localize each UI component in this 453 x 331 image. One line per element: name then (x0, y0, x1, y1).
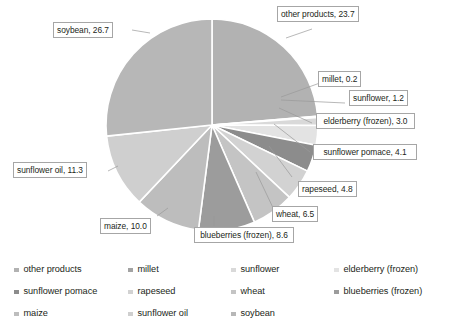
chart-legend: other productsmilletsunflowerelderberry … (14, 259, 446, 325)
callout-rapeseed: rapeseed, 4.8 (298, 181, 357, 197)
legend-swatch-icon (128, 268, 133, 273)
callout-maize: maize, 10.0 (100, 218, 151, 234)
legend-swatch-icon (334, 290, 339, 295)
legend-item[interactable]: sunflower (231, 259, 279, 280)
legend-swatch-icon (231, 268, 236, 273)
callout-millet: millet, 0.2 (318, 71, 361, 87)
legend-item[interactable]: sunflower oil (128, 303, 188, 324)
legend-swatch-icon (128, 312, 133, 317)
pie-slice-group (106, 19, 318, 231)
callout-sunflower: sunflower, 1.2 (349, 90, 408, 106)
pie-plot-area: other products, 23.7 millet, 0.2 sunflow… (0, 0, 453, 258)
pie-slice[interactable] (106, 19, 212, 136)
callout-sunflower-pomace: sunflower pomace, 4.1 (313, 144, 417, 160)
legend-swatch-icon (14, 290, 19, 295)
legend-item[interactable]: sunflower pomace (14, 281, 97, 302)
callout-wheat: wheat, 6.5 (272, 206, 318, 222)
pie-svg (0, 0, 453, 258)
legend-item[interactable]: millet (128, 259, 159, 280)
callout-other-products: other products, 23.7 (277, 6, 359, 22)
callout-soybean: soybean, 26.7 (53, 22, 113, 38)
callout-elderberry-frozen: elderberry (frozen), 3.0 (316, 113, 415, 129)
legend-swatch-icon (334, 268, 339, 273)
legend-swatch-icon (231, 312, 236, 317)
legend-item-label: millet (138, 264, 159, 275)
legend-item[interactable]: wheat (231, 281, 265, 302)
legend-item-label: sunflower (241, 264, 280, 275)
pie-slice[interactable] (212, 19, 318, 125)
legend-swatch-icon (14, 312, 19, 317)
callout-blueberries-frozen: blueberries (frozen), 8.6 (194, 227, 294, 243)
legend-swatch-icon (231, 290, 236, 295)
leader-line-soybean (132, 30, 150, 33)
legend-item[interactable]: other products (14, 259, 82, 280)
legend-item-label: elderberry (frozen) (344, 264, 419, 275)
legend-item-label: rapeseed (138, 286, 176, 297)
legend-item-label: sunflower pomace (24, 286, 98, 297)
legend-swatch-icon (14, 268, 19, 273)
legend-item[interactable]: rapeseed (128, 281, 175, 302)
legend-item-label: soybean (241, 308, 275, 319)
legend-item[interactable]: elderberry (frozen) (334, 259, 418, 280)
callout-sunflower-oil: sunflower oil, 11.3 (13, 162, 87, 178)
leader-line-otherproducts (286, 29, 312, 38)
legend-item-label: blueberries (frozen) (344, 286, 423, 297)
legend-item[interactable]: blueberries (frozen) (334, 281, 422, 302)
legend-item[interactable]: maize (14, 303, 48, 324)
legend-swatch-icon (128, 290, 133, 295)
legend-item[interactable]: soybean (231, 303, 275, 324)
legend-item-label: sunflower oil (138, 308, 188, 319)
pie-chart-figure: other products, 23.7 millet, 0.2 sunflow… (0, 0, 453, 331)
legend-item-label: wheat (241, 286, 265, 297)
legend-item-label: other products (24, 264, 82, 275)
legend-item-label: maize (24, 308, 48, 319)
